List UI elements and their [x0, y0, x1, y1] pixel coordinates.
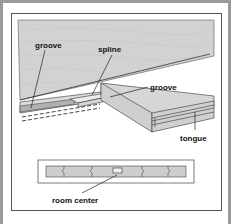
label-tongue: tongue — [180, 134, 207, 143]
flooring-spline-diagram: groove spline groove tongue room center — [0, 0, 235, 224]
label-room-center: room center — [52, 196, 98, 205]
label-groove-right: groove — [150, 83, 177, 92]
label-spline: spline — [98, 45, 122, 54]
label-groove-left: groove — [35, 41, 62, 50]
center-spline-marker — [113, 168, 122, 173]
